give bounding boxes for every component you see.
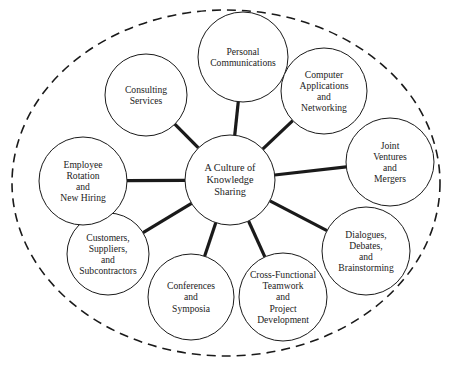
node-label-line: Customers,: [86, 232, 129, 243]
node-label-line: and: [184, 291, 198, 302]
node-label-line: Services: [130, 95, 163, 106]
node-label-line: Cross-Functional: [250, 269, 316, 280]
knowledge-sharing-diagram: ConsultingServicesPersonalCommunications…: [0, 0, 453, 368]
connector-joint-ventures: [275, 167, 347, 175]
connector-customers-suppliers: [143, 203, 191, 232]
node-label-line: Ventures: [373, 151, 407, 162]
node-label-line: Sharing: [214, 186, 246, 197]
node-label-line: and: [276, 291, 290, 302]
connector-cross-functional-teamwork: [249, 221, 265, 257]
node-label-line: and: [101, 254, 115, 265]
node-label-line: Dialogues,: [345, 229, 386, 240]
node-label-line: Conferences: [167, 280, 215, 291]
node-label-line: Knowledge: [207, 174, 254, 185]
node-label-line: Project: [269, 303, 297, 314]
node-label-line: Mergers: [374, 173, 406, 184]
node-label-line: Teamwork: [263, 280, 304, 291]
node-label-line: Employee: [64, 159, 103, 170]
connector-dialogues-debates: [270, 201, 327, 231]
node-dialogues-debates: Dialogues,Debates,andBrainstorming: [322, 207, 410, 295]
node-label-line: Computer: [305, 69, 344, 80]
node-label-line: A Culture of: [205, 162, 257, 173]
node-personal-communications: PersonalCommunications: [198, 12, 288, 102]
node-label-line: and: [317, 91, 331, 102]
node-label-line: New Hiring: [60, 192, 106, 203]
connector-conferences-symposia: [205, 223, 216, 257]
node-conferences-symposia: ConferencesandSymposia: [148, 254, 234, 340]
node-label-line: Applications: [299, 80, 348, 91]
node-cross-functional-teamwork: Cross-FunctionalTeamworkandProjectDevelo…: [239, 253, 327, 341]
node-joint-ventures: JointVenturesandMergers: [346, 118, 434, 206]
connector-personal-communications: [235, 102, 239, 135]
connector-consulting-services: [175, 124, 199, 148]
node-label-line: Suppliers,: [89, 243, 128, 254]
node-consulting-services: ConsultingServices: [105, 54, 187, 136]
node-label-line: Joint: [381, 140, 400, 151]
node-label-line: Subcontractors: [79, 265, 137, 276]
node-label-line: Debates,: [349, 240, 382, 251]
node-label-line: Brainstorming: [338, 262, 394, 273]
node-employee-rotation: EmployeeRotationandNew Hiring: [39, 137, 127, 225]
node-label-line: Rotation: [66, 170, 99, 181]
node-label-line: Consulting: [125, 84, 167, 95]
node-label-line: and: [359, 251, 373, 262]
connector-computer-applications: [263, 121, 293, 149]
node-label-line: Networking: [301, 102, 347, 113]
center-node: A Culture ofKnowledgeSharing: [185, 135, 275, 225]
node-computer-applications: ComputerApplicationsandNetworking: [281, 48, 367, 134]
node-label-line: Communications: [210, 57, 276, 68]
node-label-line: Personal: [226, 46, 259, 57]
node-label-line: Symposia: [172, 303, 211, 314]
node-label-line: and: [383, 162, 397, 173]
node-label-line: and: [76, 181, 90, 192]
node-label-line: Development: [257, 314, 309, 325]
